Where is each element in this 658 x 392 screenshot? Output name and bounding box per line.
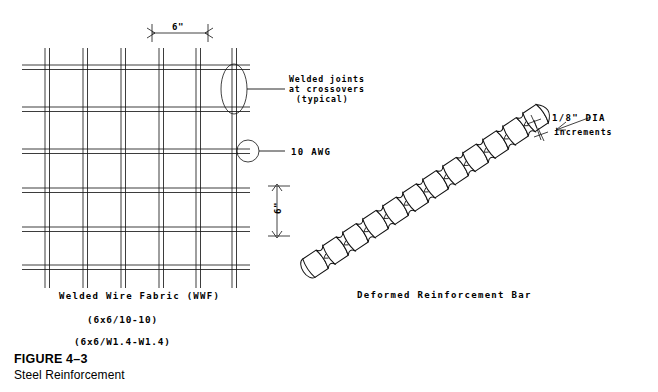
- welded-joint-label-line1: Welded joints: [289, 74, 365, 84]
- figure-caption-block: FIGURE 4–3 Steel Reinforcement: [14, 352, 314, 383]
- mesh-vertical-wire: [196, 48, 201, 288]
- rebar-body: [297, 101, 553, 281]
- mesh-horizontal-wires: [22, 65, 250, 270]
- wire-gauge-circle-marker: [237, 140, 259, 162]
- mesh-spec-imperial: (6x6/10-10): [87, 314, 158, 325]
- mesh-vertical-dimension: 6": [268, 184, 290, 238]
- mesh-vertical-wire: [159, 48, 164, 288]
- deformed-rebar-group: 1/8" DIA increments Deformed Reinforceme…: [297, 101, 612, 300]
- mesh-vertical-wire: [121, 48, 126, 288]
- welded-joint-label-line2: at crossovers: [289, 84, 365, 94]
- mesh-vertical-wire: [232, 48, 237, 288]
- figure-root: 6" 6" Welded joints at crossovers (typic…: [0, 0, 658, 392]
- mesh-horizontal-wire: [22, 227, 250, 232]
- mesh-horizontal-dimension: 6": [147, 22, 213, 42]
- mesh-vertical-wires: [45, 48, 237, 288]
- welded-joint-callout: Welded joints at crossovers (typical): [221, 64, 365, 114]
- welded-wire-fabric-group: 6" 6" Welded joints at crossovers (typic…: [22, 22, 365, 347]
- mesh-horizontal-wire: [22, 65, 250, 70]
- mesh-horizontal-wire: [22, 107, 250, 112]
- welded-joint-label-line3: (typical): [296, 94, 348, 104]
- wire-gauge-callout: 10 AWG: [237, 140, 331, 162]
- welded-joint-ellipse-marker: [221, 64, 247, 114]
- wire-gauge-label: 10 AWG: [291, 147, 331, 157]
- figure-number: FIGURE 4–3: [14, 352, 314, 367]
- mesh-horizontal-wire: [22, 188, 250, 193]
- rebar-segments: [302, 104, 550, 279]
- mesh-horizontal-dimension-label: 6": [172, 22, 184, 32]
- rebar-caption: Deformed Reinforcement Bar: [357, 290, 532, 300]
- mesh-caption: Welded Wire Fabric (WWF): [59, 291, 220, 301]
- figure-title: Steel Reinforcement: [14, 368, 314, 383]
- figure-drawing-canvas: 6" 6" Welded joints at crossovers (typic…: [0, 0, 658, 392]
- rebar-diameter-label-line2: increments: [554, 127, 612, 137]
- rebar-diameter-label-line1: 1/8" DIA: [552, 113, 606, 123]
- mesh-vertical-wire: [83, 48, 88, 288]
- mesh-horizontal-wire: [22, 265, 250, 270]
- mesh-vertical-dimension-label: 6": [273, 202, 283, 214]
- mesh-spec-metric: (6x6/W1.4-W1.4): [74, 336, 171, 347]
- mesh-horizontal-wire: [22, 149, 250, 154]
- mesh-vertical-wire: [45, 48, 50, 288]
